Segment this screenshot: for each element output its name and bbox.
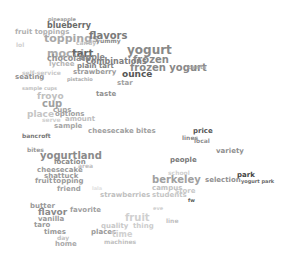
word-fw: fw [188,198,195,203]
word-thing: thing [133,223,154,230]
word-friend: friend [57,186,81,193]
word-taste: taste [96,91,116,98]
word-lychee: lychee [49,61,75,68]
word-yogurt-park: yogurt park [241,179,274,184]
word-ounce: ounce [122,70,152,79]
word-selection: selection [205,177,241,184]
word-variety: variety [216,148,244,155]
word-eve: eve [153,206,163,211]
word-bancroft: bancroft [22,133,51,139]
word-topping: topping [53,178,84,185]
word-machines: machines [104,239,136,245]
word-fruit: fruit [35,178,52,185]
word-students: students [152,192,187,199]
word-cheesecake-bites: cheesecake bites [88,128,156,135]
word-local: local [194,138,210,144]
word-home: home [55,241,77,248]
word-star: star [117,80,133,87]
word-yummy: yummy [96,38,121,44]
word-lol: lol [16,42,24,48]
word-cents: cents [188,64,206,70]
word-seating: seating [15,74,44,81]
word-cloud: pineappleblueberryfruit toppingstoppings… [0,0,286,256]
word-pistachio: pistachio [67,77,93,82]
word-strawberry: strawberry [73,69,116,76]
word-sample: sample [54,123,82,130]
word-candy: candy [76,40,96,46]
word-people: people [170,157,197,164]
word-strawberries: strawberries [100,192,150,199]
word-line: line [166,218,178,224]
word-favorite: favorite [70,207,101,214]
